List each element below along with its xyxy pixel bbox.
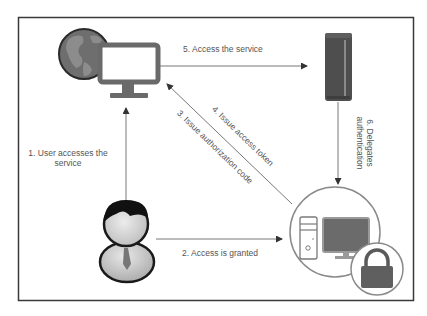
edge-label-1-line-2: service	[26, 158, 110, 168]
edge-label-6-line-1: 6. Delegates	[365, 108, 375, 178]
oauth-flow-diagram: 1. User accesses the service 2. Access i…	[0, 0, 427, 316]
edge-label-6-line-2: authentication	[355, 108, 365, 178]
edge-label-1: 1. User accesses the service	[26, 148, 110, 168]
lock-icon	[351, 243, 403, 295]
globe-monitor-icon	[59, 29, 158, 98]
server-tower-icon	[325, 33, 352, 101]
edge-label-5: 5. Access the service	[183, 44, 263, 54]
edge-label-2: 2. Access is granted	[182, 248, 258, 258]
secure-computer-icon	[290, 187, 403, 295]
edge-label-6: 6. Delegates authentication	[355, 108, 375, 178]
edge-resource-to-client	[167, 84, 292, 204]
edge-label-1-line-1: 1. User accesses the	[26, 148, 110, 158]
tower-pc-icon	[300, 217, 317, 259]
user-icon	[100, 200, 154, 282]
